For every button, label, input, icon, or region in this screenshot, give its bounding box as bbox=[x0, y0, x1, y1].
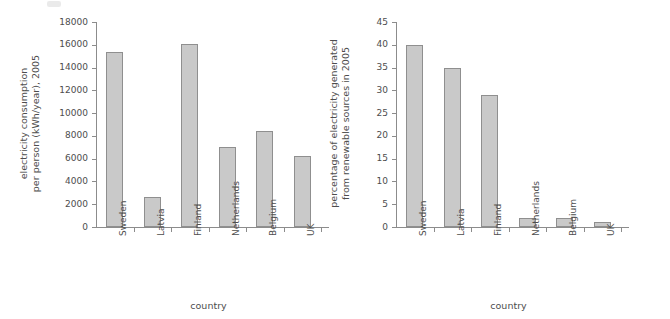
y-axis-tick bbox=[392, 90, 396, 91]
y-axis-tick bbox=[92, 227, 96, 228]
y-axis-title: percentage of electricity generated from… bbox=[328, 6, 352, 241]
y-axis-tick bbox=[92, 90, 96, 91]
x-axis-category-label: Latvia bbox=[157, 209, 166, 236]
y-axis-title: electricity consumption per person (kWh/… bbox=[18, 6, 42, 241]
y-axis-tick bbox=[392, 159, 396, 160]
x-axis-tick bbox=[134, 228, 135, 232]
y-axis-tick bbox=[92, 181, 96, 182]
x-axis-tick bbox=[546, 228, 547, 232]
x-axis-tick bbox=[434, 228, 435, 232]
y-axis-line bbox=[96, 22, 97, 227]
x-axis-category-label: Sweden bbox=[119, 200, 128, 236]
y-axis-line bbox=[396, 22, 397, 227]
y-axis-tick-label: 4000 bbox=[42, 177, 88, 186]
y-axis-tick bbox=[92, 113, 96, 114]
x-axis-line bbox=[96, 227, 329, 228]
bar bbox=[444, 68, 461, 227]
y-axis-tick-label: 8000 bbox=[42, 131, 88, 140]
x-axis-tick bbox=[621, 228, 622, 232]
y-axis-tick bbox=[392, 22, 396, 23]
y-axis-tick bbox=[392, 181, 396, 182]
y-axis-tick bbox=[92, 68, 96, 69]
y-axis-tick bbox=[92, 204, 96, 205]
x-axis-tick bbox=[321, 228, 322, 232]
chart-panel-renewable-percentage: 051015202530354045SwedenLatviaFinlandNet… bbox=[335, 0, 670, 319]
x-axis-category-label: Finland bbox=[194, 204, 203, 236]
y-axis-tick-label: 6000 bbox=[42, 154, 88, 163]
x-axis-tick bbox=[509, 228, 510, 232]
y-axis-tick-label: 12000 bbox=[42, 86, 88, 95]
y-axis-tick-label: 2000 bbox=[42, 200, 88, 209]
x-axis-tick bbox=[171, 228, 172, 232]
y-axis-tick-label: 0 bbox=[42, 223, 88, 232]
y-axis-tick bbox=[392, 227, 396, 228]
x-axis-line bbox=[396, 227, 629, 228]
y-axis-tick bbox=[392, 113, 396, 114]
y-axis-tick bbox=[92, 136, 96, 137]
x-axis-category-label: Netherlands bbox=[232, 181, 241, 236]
figure-two-bar-charts: 0200040006000800010000120001400016000180… bbox=[0, 0, 670, 319]
chart-panel-electricity-consumption: 0200040006000800010000120001400016000180… bbox=[0, 0, 335, 319]
y-axis-tick bbox=[392, 45, 396, 46]
y-axis-tick bbox=[92, 45, 96, 46]
y-axis-tick-label: 16000 bbox=[42, 40, 88, 49]
x-axis-title: country bbox=[396, 300, 621, 311]
plot-area-right: 051015202530354045SwedenLatviaFinlandNet… bbox=[396, 22, 621, 227]
x-axis-category-label: Belgium bbox=[569, 199, 578, 236]
plot-area-left: 0200040006000800010000120001400016000180… bbox=[96, 22, 321, 227]
x-axis-tick bbox=[246, 228, 247, 232]
bar bbox=[294, 156, 311, 227]
bar bbox=[181, 44, 198, 227]
x-axis-category-label: UK bbox=[607, 224, 616, 237]
x-axis-tick bbox=[209, 228, 210, 232]
y-axis-tick-label: 10000 bbox=[42, 109, 88, 118]
y-axis-tick bbox=[92, 22, 96, 23]
x-axis-category-label: Finland bbox=[494, 204, 503, 236]
x-axis-category-label: UK bbox=[307, 224, 316, 237]
x-axis-tick bbox=[284, 228, 285, 232]
y-axis-tick bbox=[92, 159, 96, 160]
x-axis-category-label: Netherlands bbox=[532, 181, 541, 236]
y-axis-tick-label: 14000 bbox=[42, 63, 88, 72]
x-axis-category-label: Latvia bbox=[457, 209, 466, 236]
x-axis-category-label: Belgium bbox=[269, 199, 278, 236]
x-axis-tick bbox=[584, 228, 585, 232]
x-axis-tick bbox=[471, 228, 472, 232]
x-axis-category-label: Sweden bbox=[419, 200, 428, 236]
x-axis-title: country bbox=[96, 300, 321, 311]
y-axis-tick bbox=[392, 136, 396, 137]
y-axis-tick-label: 18000 bbox=[42, 18, 88, 27]
y-axis-tick bbox=[392, 204, 396, 205]
y-axis-tick bbox=[392, 68, 396, 69]
